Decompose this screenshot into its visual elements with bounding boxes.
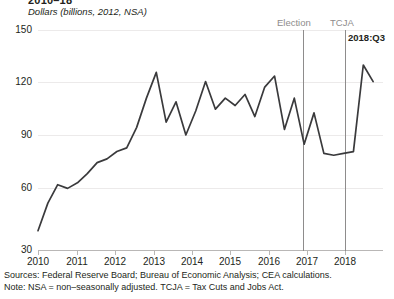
footnotes: Sources: Federal Reserve Board; Bureau o… [4, 269, 392, 293]
sources-line: Sources: Federal Reserve Board; Bureau o… [4, 269, 392, 281]
note-line: Note: NSA = non–seasonally adjusted. TCJ… [4, 281, 392, 293]
chart-figure: 2010–18 Dollars (billions, 2012, NSA) 15… [0, 0, 394, 299]
data-series-line [0, 0, 394, 299]
